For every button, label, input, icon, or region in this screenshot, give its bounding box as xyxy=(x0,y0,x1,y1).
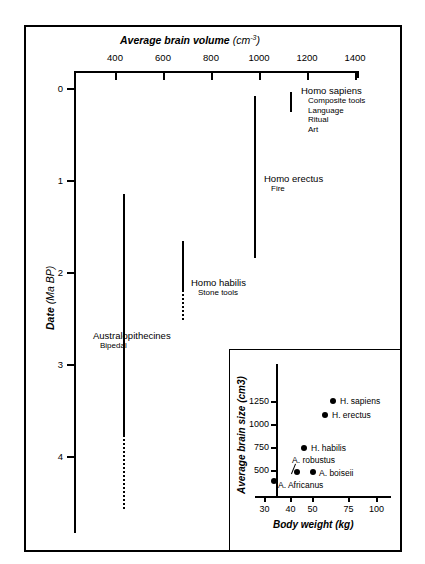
inset-x-ticklabel-3: 75 xyxy=(336,504,361,514)
y-ticklabel-0: 0 xyxy=(43,83,63,94)
inset-point-label-h-habilis: H. habilis xyxy=(311,443,346,453)
inset-point-h-sapiens xyxy=(330,398,336,404)
trait-homo-habilis-0: Stone tools xyxy=(191,288,246,298)
x-ticklabel-0: 400 xyxy=(95,52,135,63)
inset-x-ticklabel-4: 100 xyxy=(364,504,389,514)
y-ticklabel-1: 1 xyxy=(43,175,63,186)
x-axis-title-text: Average brain volume xyxy=(120,34,230,46)
inset-point-label-h-sapiens: H. sapiens xyxy=(340,396,380,406)
inset-panel: 1250 1000 750 500 30 40 50 75 100 Body w… xyxy=(229,349,401,551)
species-name-homo-sapiens: Homo sapiens xyxy=(301,85,365,96)
x-ticklabel-3: 1000 xyxy=(239,52,279,63)
x-axis-title: Average brain volume (cm-3) xyxy=(120,33,260,46)
y-tick-0 xyxy=(67,88,74,90)
inset-x-tick-75 xyxy=(348,496,350,502)
y-ticklabel-4: 4 xyxy=(43,451,63,462)
range-bar-homo-erectus xyxy=(254,96,256,258)
y-tick-4 xyxy=(67,456,74,458)
x-axis-right-cap xyxy=(357,71,359,78)
inset-y-axis-line xyxy=(276,364,278,496)
inset-point-h-erectus xyxy=(322,412,328,418)
inset-point-a-robustus xyxy=(294,469,300,475)
range-bar-dotted-homo-habilis xyxy=(182,290,184,322)
trait-australopithecines-0: Bipedal xyxy=(93,341,171,351)
species-name-homo-habilis: Homo habilis xyxy=(191,277,246,288)
inset-x-tick-40 xyxy=(290,496,292,502)
x-axis-line xyxy=(74,71,359,73)
label-homo-sapiens: Homo sapiens Composite tools Language Ri… xyxy=(301,85,365,134)
label-homo-habilis: Homo habilis Stone tools xyxy=(191,277,246,298)
inset-x-tick-50 xyxy=(312,496,314,502)
x-tick-1400 xyxy=(355,73,357,80)
inset-x-tick-100 xyxy=(376,496,378,502)
inset-point-label-a-boiseii: A. boiseii xyxy=(319,468,354,478)
x-ticklabel-2: 800 xyxy=(191,52,231,63)
inset-point-label-a-robustus: A. robustus xyxy=(292,455,335,465)
x-tick-1000 xyxy=(259,73,261,80)
inset-point-label-h-erectus: H. erectus xyxy=(332,410,371,420)
y-tick-2 xyxy=(67,272,74,274)
x-tick-600 xyxy=(163,73,165,80)
inset-x-axis-title: Body weight (kg) xyxy=(273,519,354,530)
inset-y-axis-title: Average brain size (cm3) xyxy=(236,376,247,494)
inset-point-h-habilis xyxy=(301,445,307,451)
trait-homo-sapiens-3: Art xyxy=(301,125,365,135)
inset-point-a-boiseii xyxy=(310,469,316,475)
inset-y-tick-500 xyxy=(271,470,277,472)
x-tick-400 xyxy=(115,73,117,80)
inset-x-ticklabel-0: 30 xyxy=(252,504,277,514)
x-ticklabel-4: 1200 xyxy=(287,52,327,63)
y-axis-title: Date (Ma BP) xyxy=(44,266,56,330)
species-name-homo-erectus: Homo erectus xyxy=(264,173,323,184)
range-bar-homo-habilis xyxy=(182,241,184,290)
x-tick-1200 xyxy=(307,73,309,80)
inset-x-axis-line xyxy=(255,496,391,498)
x-axis-unit: (cm-3) xyxy=(233,34,260,46)
inset-x-ticklabel-2: 50 xyxy=(300,504,325,514)
y-tick-3 xyxy=(67,364,74,366)
range-bar-homo-sapiens xyxy=(290,92,292,112)
inset-y-tick-1250 xyxy=(271,401,277,403)
range-bar-dotted-australopithecines xyxy=(123,435,125,511)
trait-homo-sapiens-0: Composite tools xyxy=(301,96,365,106)
figure-root: Average brain volume (cm-3) 400 600 800 … xyxy=(0,0,425,564)
y-axis-line xyxy=(74,71,76,533)
range-bar-australopithecines xyxy=(123,194,125,435)
inset-point-a-africanus xyxy=(271,478,277,484)
x-ticklabel-1: 600 xyxy=(143,52,183,63)
species-name-australopithecines: Australopithecines xyxy=(93,330,171,341)
inset-y-tick-750 xyxy=(271,447,277,449)
y-tick-1 xyxy=(67,180,74,182)
trait-homo-erectus-0: Fire xyxy=(264,184,323,194)
label-homo-erectus: Homo erectus Fire xyxy=(264,173,323,194)
x-tick-800 xyxy=(211,73,213,80)
x-ticklabel-5: 1400 xyxy=(335,52,375,63)
inset-x-tick-30 xyxy=(264,496,266,502)
inset-y-tick-1000 xyxy=(271,424,277,426)
label-australopithecines: Australopithecines Bipedal xyxy=(93,330,171,351)
trait-homo-sapiens-1: Language xyxy=(301,106,365,116)
y-ticklabel-3: 3 xyxy=(43,359,63,370)
trait-homo-sapiens-2: Ritual xyxy=(301,115,365,125)
main-plot: Average brain volume (cm-3) 400 600 800 … xyxy=(0,0,425,564)
inset-point-label-a-africanus: A. Africanus xyxy=(278,480,323,490)
